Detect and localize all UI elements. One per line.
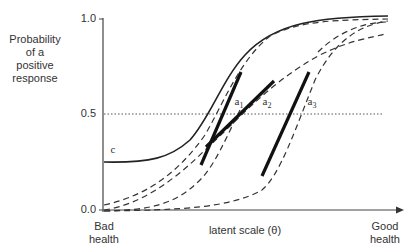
curve-5 [318, 22, 388, 52]
curve-c [104, 16, 388, 162]
chart-plot [0, 0, 413, 251]
annotation-a1-sub: 1 [239, 101, 243, 110]
annotation-c: c [108, 143, 118, 156]
annotation-a2-sub: 2 [267, 101, 271, 110]
annotation-a1: a1 [231, 95, 247, 112]
curve-4 [104, 21, 388, 211]
annotation-a3-sub: 3 [312, 101, 316, 110]
dashed-curves [104, 19, 388, 211]
annotation-a3: a3 [304, 95, 320, 112]
x-axis-arrow-icon [396, 207, 404, 214]
annotation-a2: a2 [259, 95, 275, 112]
curve-2 [104, 34, 385, 210]
